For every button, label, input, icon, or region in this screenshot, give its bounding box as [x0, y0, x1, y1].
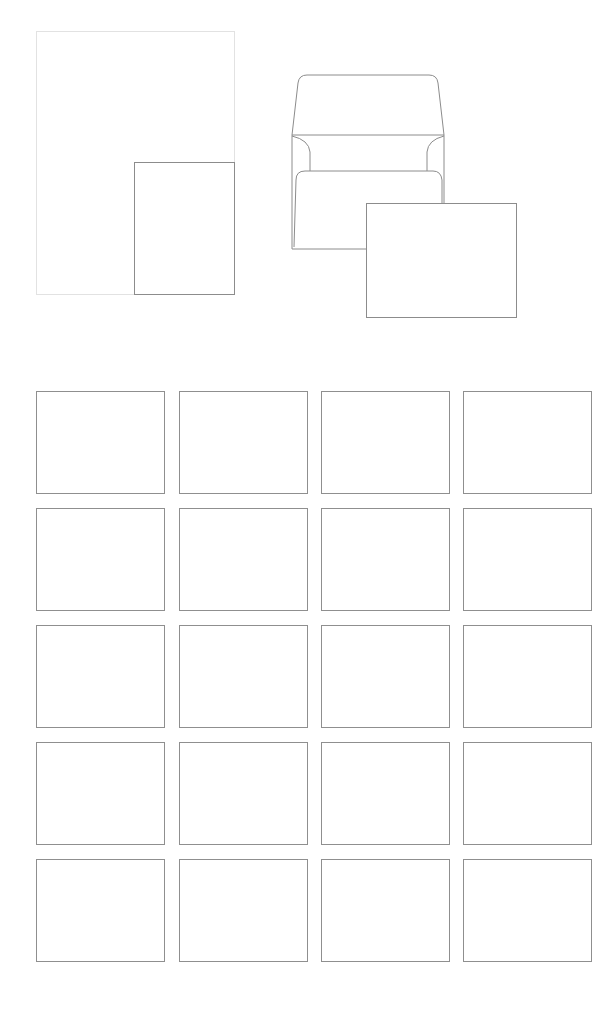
grid-card — [179, 391, 308, 494]
grid-card — [36, 391, 165, 494]
grid-card — [321, 508, 450, 611]
grid-card — [179, 625, 308, 728]
grid-card — [179, 859, 308, 962]
grid-card — [321, 859, 450, 962]
grid-card — [321, 625, 450, 728]
grid-card — [321, 742, 450, 845]
grid-card — [463, 625, 592, 728]
grid-card — [179, 508, 308, 611]
envelope-card — [366, 203, 517, 318]
grid-card — [321, 391, 450, 494]
grid-card — [36, 859, 165, 962]
grid-card — [36, 508, 165, 611]
grid-card — [463, 508, 592, 611]
grid-card — [36, 742, 165, 845]
grid-card — [179, 742, 308, 845]
grid-card — [463, 391, 592, 494]
grid-card — [36, 625, 165, 728]
grid-card — [463, 742, 592, 845]
envelope-icon — [0, 0, 613, 400]
grid-card — [463, 859, 592, 962]
